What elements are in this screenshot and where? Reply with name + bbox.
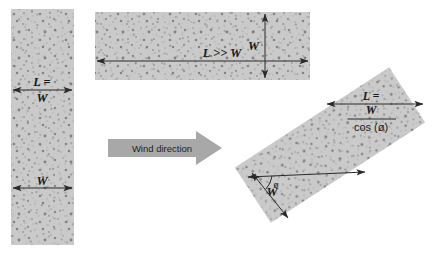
panel-square-block: L = W W xyxy=(11,9,74,245)
rotated-length-label-denominator: cos (ø) xyxy=(354,121,388,133)
rotated-length-label-numerator-a: L = xyxy=(362,89,380,103)
panel-elongated-block: L >> W W xyxy=(95,12,310,80)
figure-canvas: L = W W L >> W W Wind direction xyxy=(0,0,438,262)
elongated-width-label: W xyxy=(248,39,260,53)
square-length-label-line2: W xyxy=(36,91,48,105)
square-length-label-line1: L = xyxy=(32,75,50,89)
square-width-label: W xyxy=(36,174,48,188)
rotated-block-texture xyxy=(235,67,425,223)
diagram-svg: L = W W L >> W W Wind direction xyxy=(0,0,438,262)
wind-direction-label: Wind direction xyxy=(132,143,192,154)
rotated-angle-label: ø xyxy=(273,180,279,190)
elongated-length-label: L >> W xyxy=(202,46,242,60)
rotated-length-label-numerator-b: W xyxy=(366,103,378,117)
square-block-texture xyxy=(11,9,74,245)
wind-direction-arrow: Wind direction xyxy=(108,131,222,165)
panel-rotated-block: L = W cos (ø) W ø xyxy=(235,67,425,223)
